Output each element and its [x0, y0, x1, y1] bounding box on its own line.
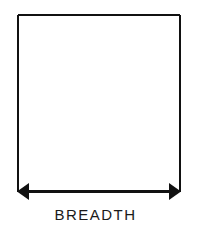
rectangle-outline: [18, 15, 180, 192]
double-arrow-icon: [17, 183, 181, 200]
breadth-label: BREADTH: [0, 206, 191, 223]
